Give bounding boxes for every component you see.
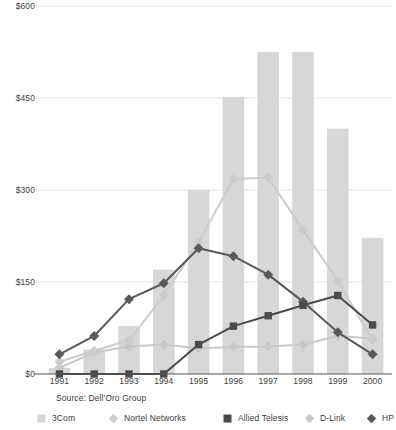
legend-item[interactable]: Nortel Networks [108,410,186,426]
x-axis-tick-label: 1992 [85,376,104,386]
data-line [59,295,372,374]
chart-svg [42,6,390,374]
source-note: Source: Dell'Oro Group [56,393,146,403]
legend-item[interactable]: 3Com [36,410,75,426]
x-axis-labels: 1991199219931994199519961997199819992000 [42,376,390,390]
bar [292,52,314,374]
data-point [54,349,64,359]
legend-square-icon [36,413,47,424]
y-axis-tick-label: $450 [16,93,35,103]
legend-label: Allied Telesis [238,413,288,423]
legend-diamond-icon [108,413,119,424]
x-axis-tick-label: 1994 [154,376,173,386]
y-axis-tick-label: $150 [16,277,35,287]
x-axis-tick-label: 1999 [328,376,347,386]
legend-item[interactable]: D-Link [304,410,345,426]
x-axis-tick-label: 1995 [189,376,208,386]
x-axis-tick-label: 1991 [50,376,69,386]
data-point [195,341,202,348]
legend-label: HP [382,413,394,423]
y-axis-tick-label: $300 [16,185,35,195]
x-axis-tick-label: 1996 [224,376,243,386]
data-point [299,302,306,309]
data-line [59,336,372,368]
data-point [334,292,341,299]
bar [223,97,245,374]
chart-container: $0$150$300$450$600 199119921993199419951… [0,0,396,430]
x-axis-tick-label: 1993 [119,376,138,386]
legend-label: D-Link [320,413,345,423]
x-axis-tick-label: 1997 [259,376,278,386]
data-point [265,312,272,319]
legend-item[interactable]: HP [366,410,394,426]
x-axis-tick-label: 2000 [363,376,382,386]
chart-legend: 3ComNortel NetworksAllied TelesisD-LinkH… [36,410,388,426]
y-axis-tick-label: $600 [16,1,35,11]
legend-label: 3Com [52,413,75,423]
legend-diamond-icon [304,413,315,424]
data-line [59,178,372,362]
y-axis-labels: $0$150$300$450$600 [0,0,40,380]
plot-area [42,6,390,374]
x-axis-tick-label: 1998 [293,376,312,386]
legend-square-icon [222,413,233,424]
data-point [230,322,237,329]
data-point [369,321,376,328]
bar-series-3com [49,52,384,374]
y-axis-tick-label: $0 [25,369,35,379]
legend-item[interactable]: Allied Telesis [222,410,288,426]
legend-label: Nortel Networks [124,413,186,423]
legend-diamond-icon [366,413,377,424]
bar [257,52,279,374]
